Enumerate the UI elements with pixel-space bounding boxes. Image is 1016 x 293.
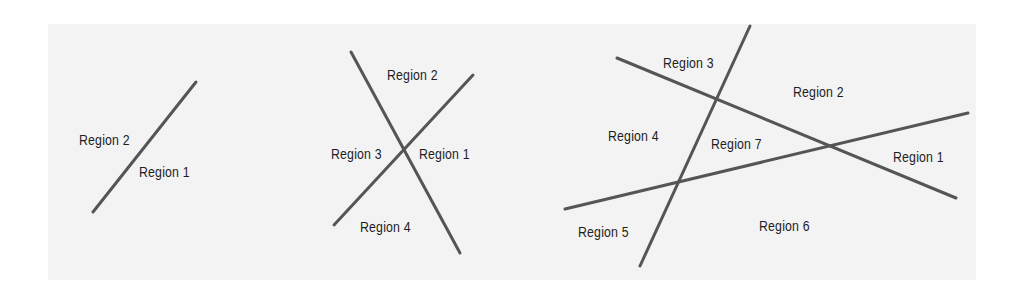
regions-diagram: Region 2Region 1Region 2Region 3Region 1…	[0, 0, 1016, 293]
region-label: Region 7	[711, 136, 762, 152]
region-label: Region 1	[893, 149, 944, 165]
region-label: Region 2	[793, 84, 844, 100]
region-label: Region 6	[759, 218, 810, 234]
region-label: Region 1	[139, 164, 190, 180]
region-label: Region 5	[578, 224, 629, 240]
region-label: Region 4	[360, 219, 411, 235]
region-label: Region 4	[608, 128, 659, 144]
region-label: Region 3	[331, 146, 382, 162]
dividing-lines	[0, 0, 1016, 293]
region-label: Region 3	[663, 55, 714, 71]
region-label: Region 1	[419, 146, 470, 162]
region-label: Region 2	[387, 67, 438, 83]
region-label: Region 2	[79, 132, 130, 148]
